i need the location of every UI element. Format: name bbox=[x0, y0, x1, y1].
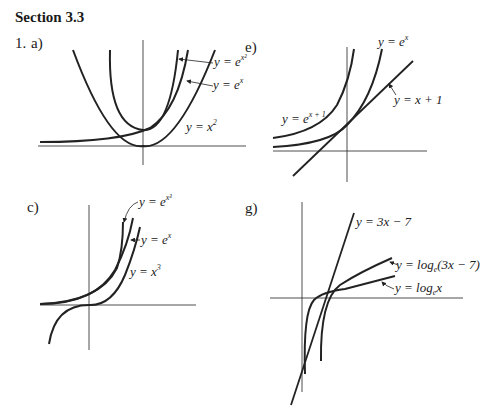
label-e-x-squared: y = ex² bbox=[212, 53, 247, 69]
pointer-arrow bbox=[179, 59, 213, 63]
label-log-x: y = logex bbox=[393, 280, 442, 297]
pointer-arrow bbox=[382, 282, 394, 289]
line-3x-minus-7 bbox=[291, 213, 354, 405]
label-x-plus-1: y = x + 1 bbox=[392, 92, 443, 107]
curve-log-x bbox=[305, 276, 395, 374]
label-e-x: y = ex bbox=[376, 33, 409, 49]
label-e-x: y = ex bbox=[139, 231, 172, 247]
label-e-x-cubed: y = ex³ bbox=[137, 193, 172, 209]
label-3x-minus-7: y = 3x − 7 bbox=[354, 214, 412, 229]
label-e-x: y = ex bbox=[211, 76, 244, 92]
curve-e-x-cubed bbox=[40, 222, 123, 304]
label-log-3x-minus-7: y = loge(3x − 7) bbox=[394, 257, 480, 274]
label-x-squared: y = x2 bbox=[184, 118, 217, 134]
figure-graphs: y = ex² y = ex y = x2 y = ex y = ex + 1 … bbox=[0, 0, 492, 416]
graph-g bbox=[270, 202, 463, 405]
graph-c bbox=[40, 202, 196, 350]
pointer-arrow bbox=[124, 202, 138, 222]
label-x-cubed: y = x3 bbox=[128, 263, 161, 279]
curve-e-x-squared bbox=[110, 50, 178, 130]
curve-log-3x-minus-7 bbox=[321, 258, 392, 361]
curve-e-x bbox=[273, 49, 382, 147]
